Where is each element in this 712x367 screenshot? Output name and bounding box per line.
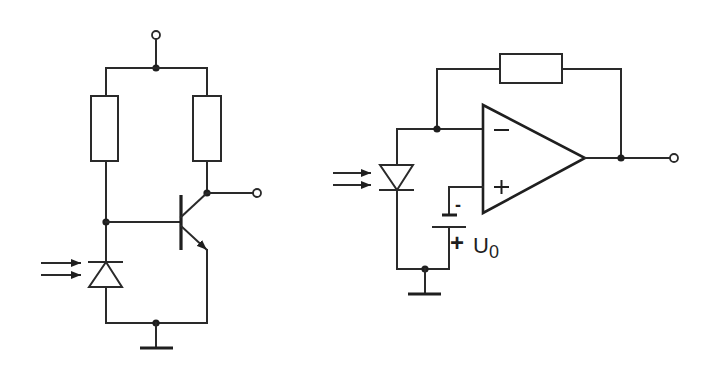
transistor-collector-lead: [181, 193, 207, 217]
feedback-wire-left: [437, 69, 500, 129]
npn-transistor: [181, 193, 207, 250]
photodiode-left: [89, 262, 122, 323]
feedback-wire-right: [562, 69, 621, 158]
top-rail: [106, 68, 207, 96]
bias-voltage-source: - + U0: [432, 195, 499, 262]
battery-minus-label: -: [455, 195, 461, 215]
op-amp: [483, 105, 585, 213]
transistor-emitter-arrow-icon: [181, 226, 206, 249]
diode-triangle: [89, 262, 122, 287]
bias-return-wire: [397, 227, 449, 269]
supply-terminal: [152, 31, 160, 39]
output-terminal: [670, 154, 678, 162]
diode-triangle: [380, 165, 413, 190]
op-amp-triangle: [483, 105, 585, 213]
inverting-input-wire: [397, 129, 483, 165]
photodiode-right: [380, 165, 413, 269]
battery-plus-label: +: [450, 229, 464, 256]
bias-voltage-label: U0: [473, 233, 499, 262]
output-junction: [617, 154, 624, 161]
bias-voltage-subscript: 0: [489, 242, 499, 262]
bias-voltage-symbol: U: [473, 233, 489, 258]
left-resistor: [91, 96, 118, 161]
left-circuit: [42, 31, 261, 348]
circuit-diagram: - + U0: [0, 0, 712, 367]
right-circuit: - + U0: [334, 54, 678, 294]
right-resistor: [193, 96, 221, 161]
inverting-junction: [433, 125, 440, 132]
output-terminal: [253, 189, 261, 197]
feedback-resistor: [500, 54, 562, 83]
